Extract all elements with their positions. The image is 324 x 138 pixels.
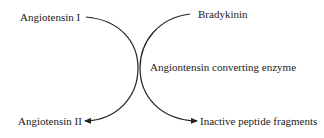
- left-reaction-curve: [85, 17, 138, 121]
- product-inactive-fragments: Inactive peptide fragments: [200, 116, 317, 127]
- substrate-angiotensin-i: Angiotensin I: [20, 12, 80, 23]
- product-angiotensin-ii: Angiotensin II: [18, 116, 82, 127]
- substrate-bradykinin: Bradykinin: [198, 9, 248, 20]
- enzyme-label: Angiontensin converting enzyme: [150, 62, 296, 73]
